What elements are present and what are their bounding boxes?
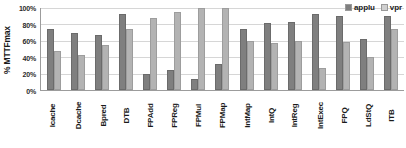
- bar-group: [186, 8, 210, 90]
- bar-vpr: [367, 57, 374, 90]
- bar-group: [66, 8, 90, 90]
- bar-group: [138, 8, 162, 90]
- x-label-cell: DTB: [115, 93, 138, 148]
- bar-vpr: [343, 42, 350, 90]
- bar-group: [114, 8, 138, 90]
- bar-vpr: [78, 55, 85, 90]
- x-axis-label: IntMap: [243, 103, 252, 128]
- y-tick-label: 60%: [23, 38, 36, 45]
- bar-groups: [41, 8, 404, 90]
- y-tick-label: 100%: [19, 5, 36, 12]
- y-tick-label: 0%: [26, 88, 36, 95]
- bar-vpr: [102, 45, 109, 90]
- legend-swatch-vpr: [381, 4, 388, 11]
- x-axis-label: LdStQ: [364, 104, 373, 127]
- x-label-cell: Bpred: [92, 93, 115, 148]
- legend-label-applu: applu: [354, 3, 375, 12]
- bar-group: [283, 8, 307, 90]
- x-label-cell: FPReg: [162, 93, 186, 148]
- y-axis-ticks: 100%80%60%40%20%0%: [14, 8, 38, 91]
- bar-vpr: [174, 12, 181, 90]
- x-axis-label: Dcache: [74, 102, 83, 129]
- bar-vpr: [222, 8, 229, 90]
- x-axis-label: ITB: [387, 109, 396, 121]
- bar-applu: [143, 74, 150, 90]
- bar-group: [379, 8, 403, 90]
- bar-group: [259, 8, 283, 90]
- bar-vpr: [391, 29, 398, 91]
- bar-applu: [384, 16, 391, 90]
- bar-group: [90, 8, 114, 90]
- bar-applu: [288, 22, 295, 90]
- x-axis-label: FPReg: [170, 103, 179, 127]
- bar-applu: [191, 79, 198, 90]
- x-axis-label: Icache: [48, 104, 57, 128]
- bar-group: [162, 8, 186, 90]
- bar-chart: applu vpr % MTTFmax 100%80%60%40%20%0% I…: [0, 0, 406, 148]
- bar-group: [331, 8, 355, 90]
- bar-vpr: [295, 41, 302, 90]
- bar-vpr: [126, 29, 133, 91]
- bar-vpr: [198, 8, 205, 90]
- bar-applu: [336, 16, 343, 90]
- x-axis-labels: IcacheDcacheBpredDTBFPAddFPRegFPMulFPMap…: [40, 93, 404, 148]
- bar-applu: [47, 29, 54, 91]
- legend-label-vpr: vpr: [390, 3, 402, 12]
- y-axis-title-text: % MTTFmax: [2, 26, 12, 74]
- bar-vpr: [150, 18, 157, 90]
- y-tick-label: 80%: [23, 21, 36, 28]
- bar-applu: [167, 70, 174, 91]
- x-label-cell: IntExec: [307, 93, 334, 148]
- bar-applu: [95, 35, 102, 90]
- x-axis-label: IntQ: [267, 108, 276, 123]
- x-label-cell: Dcache: [65, 93, 92, 148]
- bar-group: [235, 8, 259, 90]
- bar-applu: [240, 29, 247, 91]
- bar-applu: [71, 33, 78, 90]
- bar-group: [42, 8, 66, 90]
- bar-applu: [264, 23, 271, 90]
- y-tick-label: 20%: [23, 71, 36, 78]
- x-axis-label: DTB: [122, 108, 131, 124]
- chart-legend: applu vpr: [345, 2, 402, 13]
- y-tick-label: 40%: [23, 54, 36, 61]
- bar-vpr: [319, 68, 326, 90]
- x-label-cell: IntQ: [260, 93, 283, 148]
- bar-vpr: [54, 51, 61, 90]
- legend-entry-applu: applu: [345, 3, 375, 12]
- legend-entry-vpr: vpr: [381, 3, 402, 12]
- x-label-cell: FPQ: [334, 93, 357, 148]
- x-axis-label: FPAdd: [146, 103, 155, 127]
- x-axis-label: FPMap: [218, 103, 227, 128]
- bar-vpr: [247, 41, 254, 90]
- bar-group: [355, 8, 379, 90]
- x-label-cell: IntMap: [235, 93, 260, 148]
- bar-applu: [215, 64, 222, 90]
- x-axis-label: Bpred: [99, 104, 108, 126]
- x-label-cell: LdStQ: [357, 93, 380, 148]
- bar-group: [307, 8, 331, 90]
- legend-swatch-applu: [345, 4, 352, 11]
- x-label-cell: FPMap: [210, 93, 235, 148]
- plot-area: [40, 8, 404, 91]
- x-label-cell: ITB: [380, 93, 403, 148]
- bar-applu: [312, 14, 319, 90]
- bar-applu: [119, 14, 126, 90]
- x-axis-label: IntExec: [316, 102, 325, 129]
- x-label-cell: FPMul: [187, 93, 210, 148]
- x-axis-label: FPQ: [341, 108, 350, 124]
- bar-applu: [360, 39, 367, 90]
- x-label-cell: Icache: [41, 93, 65, 148]
- x-label-cell: FPAdd: [138, 93, 162, 148]
- x-label-cell: IntReg: [283, 93, 307, 148]
- y-axis-title: % MTTFmax: [0, 0, 14, 100]
- x-axis-label: IntReg: [290, 104, 299, 128]
- bar-group: [210, 8, 234, 90]
- bar-vpr: [271, 43, 278, 90]
- x-axis-label: FPMul: [194, 104, 203, 127]
